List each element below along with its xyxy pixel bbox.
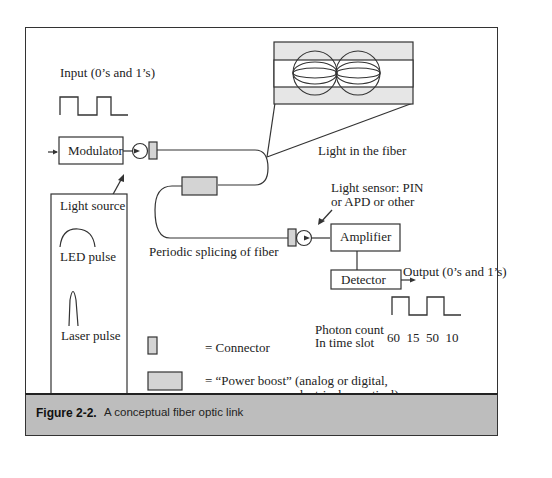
detector-label: Detector (341, 273, 386, 287)
legend-power-boost-label-1: = “Power boost” (analog or digital, (205, 374, 388, 388)
input-arrow-icon (53, 150, 58, 155)
light-source-box (51, 194, 127, 412)
light-sensor-label-2: or APD or other (331, 195, 414, 209)
caption-bar: Figure 2-2. A conceptual fiber optic lin… (25, 393, 498, 436)
light-sensor-label-1: Light sensor: PIN (331, 181, 423, 195)
connector-2 (288, 229, 296, 246)
input-label: Input (0’s and 1’s) (60, 66, 155, 80)
power-boost-1 (182, 177, 217, 195)
legend-connector-symbol (148, 337, 157, 354)
photon-count-values: 60 15 50 10 (387, 331, 459, 345)
periodic-splicing-label: Periodic splicing of fiber (149, 245, 279, 259)
figure-number: Figure 2-2. (36, 406, 97, 420)
connector-1 (149, 142, 157, 159)
light-source-arrow-icon (118, 174, 124, 182)
magnified-fiber-icon (274, 42, 413, 104)
led-pulse-label: LED pulse (60, 250, 116, 264)
modulator-label: Modulator (68, 144, 123, 158)
legend-power-boost-symbol (148, 372, 182, 390)
light-source-label: Light source (60, 199, 125, 213)
output-label: Output (0’s and 1’s) (403, 265, 507, 279)
input-square-wave (60, 97, 128, 115)
output-square-wave (392, 297, 461, 315)
figure-caption: A conceptual fiber optic link (104, 406, 243, 418)
light-in-fiber-label: Light in the fiber (318, 144, 406, 158)
laser-pulse-label: Laser pulse (61, 329, 121, 343)
photon-count-label-2: In time slot (315, 336, 374, 350)
amplifier-label: Amplifier (340, 230, 391, 244)
legend-connector-label: = Connector (205, 341, 270, 355)
